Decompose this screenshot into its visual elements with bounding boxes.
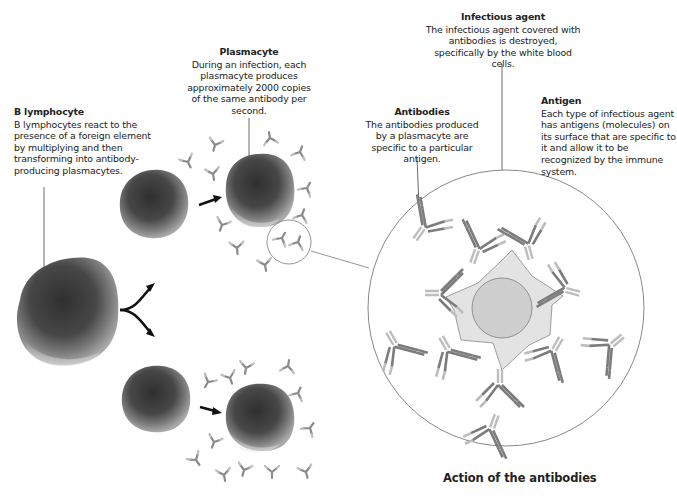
label-b-lymphocyte: B lymphocyte B lymphocytes react to the … — [14, 106, 162, 177]
upper-plasmacyte-cell — [226, 154, 295, 228]
label-plasmacyte-text: During an infection, each plasmacyte pro… — [187, 59, 311, 116]
label-antigen-text: Each type of infectious agent has antige… — [541, 108, 676, 177]
label-b-lymphocyte-title: B lymphocyte — [14, 106, 162, 118]
magnifier-connector-line — [311, 251, 369, 268]
label-antibodies: Antibodies The antibodies produced by a … — [360, 106, 484, 165]
label-infectious-agent: Infectious agent The infectious agent co… — [425, 11, 581, 70]
label-b-lymphocyte-text: B lymphocytes react to the presence of a… — [14, 119, 151, 176]
division-arrow-icon — [120, 288, 150, 332]
label-plasmacyte: Plasmacyte During an infection, each pla… — [183, 46, 315, 117]
infectious-agent-circle — [472, 278, 532, 338]
magnifier-circle — [267, 220, 311, 264]
label-antibodies-text: The antibodies produced by a plasmacyte … — [366, 119, 479, 165]
transform-arrow-lower — [200, 407, 222, 415]
diagram-caption: Action of the antibodies — [443, 471, 597, 485]
label-antigen: Antigen Each type of infectious agent ha… — [541, 95, 676, 177]
lower-plasmacyte-cell — [226, 384, 294, 453]
label-antibodies-title: Antibodies — [360, 106, 484, 118]
label-plasmacyte-title: Plasmacyte — [183, 46, 315, 58]
upper-daughter-cell — [120, 170, 188, 238]
lower-daughter-cell — [122, 366, 190, 433]
antibody-diagram-art — [0, 0, 677, 504]
transform-arrow-upper — [199, 195, 222, 205]
label-infectious-agent-title: Infectious agent — [425, 11, 581, 23]
label-antigen-title: Antigen — [541, 95, 676, 107]
b-lymphocyte-cell — [17, 258, 118, 367]
label-infectious-agent-text: The infectious agent covered with antibo… — [426, 24, 581, 70]
